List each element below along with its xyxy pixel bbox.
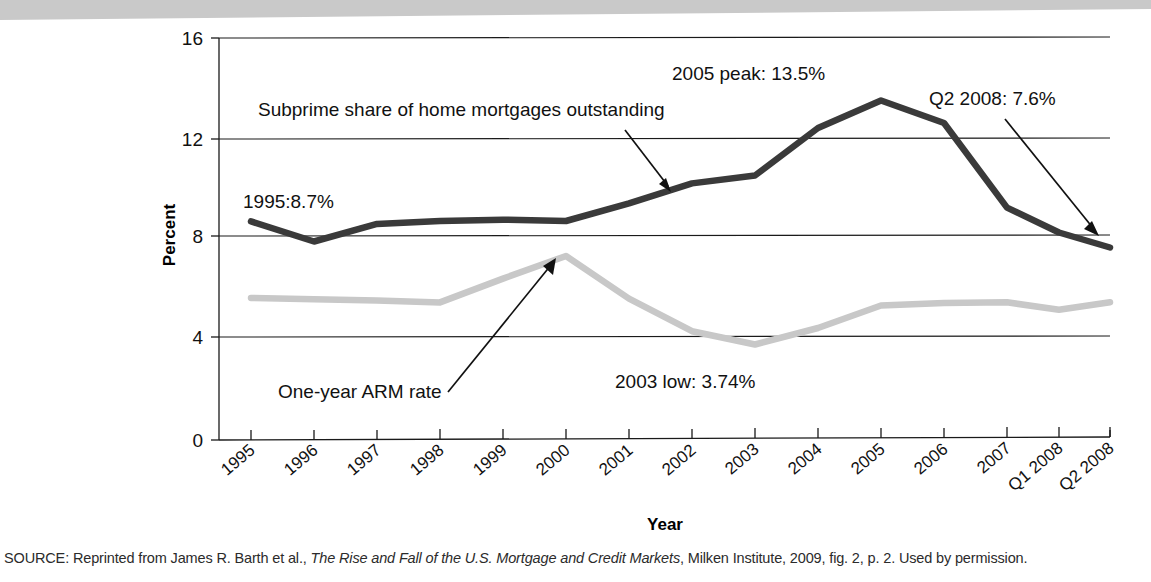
x-tick-label-q1-2008: Q1 2008 (1004, 439, 1066, 495)
y-tick-labels: 16 12 8 4 0 (182, 28, 204, 451)
y-tick-label-12: 12 (182, 129, 203, 150)
x-tick-label-2007: 2007 (973, 439, 1014, 478)
y-tick-marks (211, 38, 219, 440)
gridline-8 (219, 235, 1110, 236)
y-tick-label-4: 4 (192, 327, 203, 348)
gridline-4 (219, 336, 1110, 337)
source-note: SOURCE: Reprinted from James R. Barth et… (0, 550, 1151, 566)
y-axis-title: Percent (160, 203, 179, 266)
x-tick-label-q2-2008: Q2 2008 (1055, 439, 1117, 495)
y-tick-label-0: 0 (192, 430, 203, 451)
series-label-arm: One-year ARM rate (278, 381, 442, 402)
source-suffix: , Milken Institute, 2009, fig. 2, p. 2. … (680, 550, 1027, 566)
series-line-subprime-share (251, 101, 1110, 248)
x-tick-label-2000: 2000 (532, 441, 573, 480)
x-tick-label-1998: 1998 (406, 441, 447, 480)
x-tick-label-2002: 2002 (658, 441, 699, 480)
page-top-band (0, 0, 1151, 20)
series-line-one-year-arm-rate (251, 256, 1110, 345)
leader-subprime (625, 130, 671, 192)
x-tick-label-1999: 1999 (469, 441, 510, 480)
callout-2005-peak: 2005 peak: 13.5% (672, 63, 825, 84)
y-tick-label-16: 16 (182, 28, 203, 49)
leader-q2-2008 (1005, 119, 1099, 236)
gridline-12 (219, 138, 1110, 139)
callout-1995: 1995:8.7% (243, 191, 334, 212)
x-axis-title: Year (647, 515, 683, 534)
y-tick-label-8: 8 (192, 226, 203, 247)
x-tick-label-1997: 1997 (343, 441, 384, 480)
x-tick-label-1996: 1996 (280, 441, 321, 480)
series-label-subprime: Subprime share of home mortgages outstan… (258, 99, 665, 120)
x-tick-label-1995: 1995 (217, 441, 258, 480)
x-tick-label-2003: 2003 (721, 440, 762, 479)
x-tick-label-2001: 2001 (595, 441, 636, 480)
source-title: The Rise and Fall of the U.S. Mortgage a… (311, 550, 680, 566)
x-tick-label-2005: 2005 (847, 440, 888, 479)
line-chart: 16 12 8 4 0 Percent 199 (0, 20, 1151, 540)
x-tick-labels: 1995 1996 1997 1998 1999 2000 2001 2002 … (217, 439, 1117, 495)
x-axis (219, 437, 1110, 440)
x-tick-label-2004: 2004 (784, 440, 825, 479)
callout-2003-low: 2003 low: 3.74% (615, 371, 756, 392)
source-prefix: SOURCE: Reprinted from James R. Barth et… (4, 550, 311, 566)
figure-container: 16 12 8 4 0 Percent 199 (0, 20, 1151, 540)
gridline-16 (219, 37, 1110, 38)
x-tick-label-2006: 2006 (910, 440, 951, 479)
callout-q2-2008: Q2 2008: 7.6% (929, 88, 1056, 109)
